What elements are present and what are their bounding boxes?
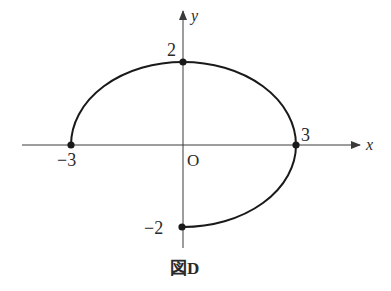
tick-label-y-neg2: −2	[144, 218, 163, 238]
point-0-neg2	[178, 223, 185, 230]
figure-caption: 図D	[170, 259, 199, 278]
diagram-canvas: y x O 2 −2 −3 3 図D	[0, 0, 391, 291]
tick-label-x-neg3: −3	[57, 150, 76, 170]
tick-label-y-2: 2	[167, 40, 176, 60]
origin-label: O	[187, 151, 199, 170]
x-axis-label: x	[365, 136, 373, 153]
tick-label-x-3: 3	[301, 125, 310, 145]
point-0-2	[179, 58, 186, 65]
point-3-0	[292, 141, 299, 148]
point-neg3-0	[67, 141, 74, 148]
y-axis-label: y	[189, 7, 199, 25]
